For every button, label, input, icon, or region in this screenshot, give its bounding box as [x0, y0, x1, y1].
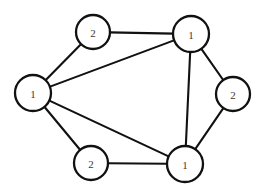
- graph-node[interactable]: 2: [74, 146, 108, 180]
- graph-node[interactable]: 1: [15, 75, 51, 111]
- graph-edge: [195, 108, 224, 150]
- graph-edge: [107, 163, 167, 164]
- node-label: 2: [90, 27, 96, 39]
- graph-node[interactable]: 1: [173, 16, 209, 52]
- graph-edge: [49, 100, 169, 156]
- graph-node[interactable]: 1: [167, 146, 203, 182]
- node-layer: 211221: [15, 15, 250, 182]
- node-label: 1: [30, 88, 36, 100]
- graph-node[interactable]: 2: [216, 77, 250, 111]
- graph-node[interactable]: 2: [76, 15, 110, 49]
- graph-edge: [109, 32, 173, 33]
- graph-edge: [49, 40, 174, 87]
- graph-diagram: 211221: [0, 0, 266, 191]
- node-label: 2: [88, 158, 94, 170]
- diagram-canvas: 211221: [0, 0, 266, 191]
- node-label: 1: [182, 159, 188, 171]
- graph-edge: [201, 48, 224, 80]
- node-label: 1: [188, 29, 194, 41]
- graph-edge: [45, 44, 81, 81]
- node-label: 2: [230, 89, 236, 101]
- graph-edge: [186, 51, 190, 146]
